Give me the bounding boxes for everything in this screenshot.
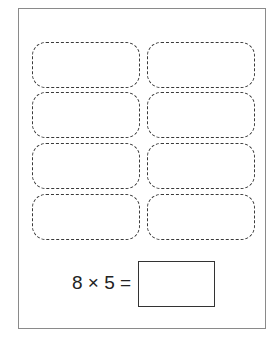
group-slot-r3-c2[interactable] [147,143,255,189]
group-slot-r1-c1[interactable] [32,42,140,88]
group-slot-r4-c2[interactable] [147,194,255,240]
group-slot-r4-c1[interactable] [32,194,140,240]
group-slot-r1-c2[interactable] [147,42,255,88]
group-slot-r3-c1[interactable] [32,143,140,189]
group-slot-r2-c1[interactable] [32,92,140,138]
answer-input-box[interactable] [138,261,215,307]
group-slot-r2-c2[interactable] [147,92,255,138]
equation-label: 8 × 5 = [72,273,131,292]
